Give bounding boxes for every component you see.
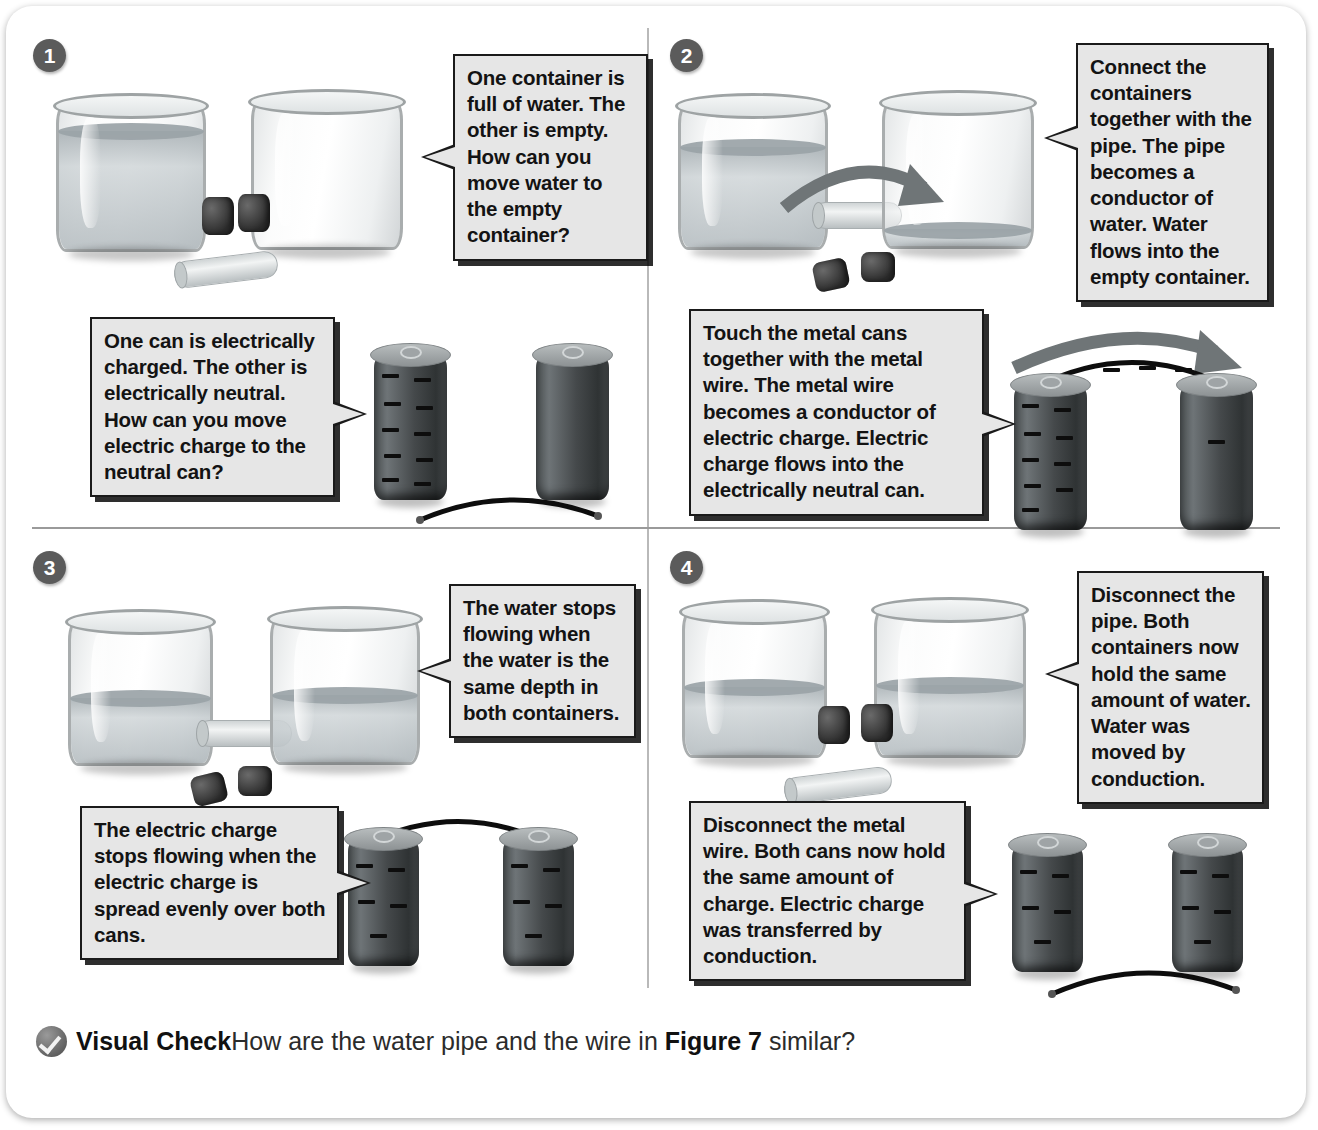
water-container-equal-left: [68, 618, 213, 766]
stopper-left-container: [202, 197, 234, 235]
stopper-removed-4: [238, 766, 272, 796]
can-equalized-left: [348, 838, 419, 966]
panel-2-charge-callout: Touch the metal cans together with the m…: [689, 309, 984, 516]
can-final-right: [1172, 844, 1243, 972]
panel-1-water-callout: One container is full of water. The othe…: [453, 54, 648, 261]
can-charged: [374, 354, 447, 500]
stopper-replaced-right: [861, 704, 893, 742]
visual-check-label: Visual Check: [76, 1027, 231, 1055]
stopper-removed-3: [189, 770, 229, 807]
stopper-removed-1: [811, 257, 850, 293]
water-container-final-left: [682, 608, 827, 758]
stopper-replaced-left: [818, 706, 850, 744]
water-flow-arrow: [776, 146, 956, 221]
panel-4-water-callout: Disconnect the pipe. Both containers now…: [1077, 571, 1264, 804]
horizontal-divider: [32, 527, 1280, 529]
wire-disconnected: [1046, 958, 1246, 1004]
can-neutral: [536, 354, 609, 500]
stopper-removed-2: [861, 252, 895, 282]
pipe-disconnected: [783, 766, 893, 806]
check-mark-icon: [36, 1026, 67, 1057]
can-charged-connected: [1014, 384, 1087, 530]
water-container-empty: [251, 98, 403, 250]
water-container-full: [56, 102, 206, 252]
loose-wire: [414, 486, 604, 528]
visual-check-question-part2: similar?: [762, 1027, 855, 1055]
can-equalized-right: [503, 838, 574, 966]
figure-reference: Figure 7: [665, 1027, 762, 1055]
panel-number-4: 4: [670, 551, 703, 584]
can-receiving-charge: [1180, 384, 1253, 530]
figure-card: 1 One container is full of water. The ot…: [6, 6, 1306, 1118]
panel-2-water-callout: Connect the containers together with the…: [1076, 43, 1269, 302]
panel-number-1: 1: [33, 39, 66, 72]
panel-number-2: 2: [670, 39, 703, 72]
panel-3-charge-callout: The electric charge stops flowing when t…: [80, 806, 339, 960]
panel-number-3: 3: [33, 551, 66, 584]
water-container-equal-right: [270, 615, 420, 765]
panel-1-charge-callout: One can is electrically charged. The oth…: [90, 317, 335, 497]
water-container-final-right: [874, 606, 1026, 758]
panel-3-water-callout: The water stops flowing when the water i…: [449, 584, 636, 738]
panel-4-charge-callout: Disconnect the metal wire. Both cans now…: [689, 801, 966, 981]
can-final-left: [1012, 844, 1083, 972]
visual-check-question-part1: How are the water pipe and the wire in: [231, 1027, 665, 1055]
stopper-right-container: [238, 194, 270, 232]
visual-check-footer: Visual CheckHow are the water pipe and t…: [36, 1026, 1276, 1076]
